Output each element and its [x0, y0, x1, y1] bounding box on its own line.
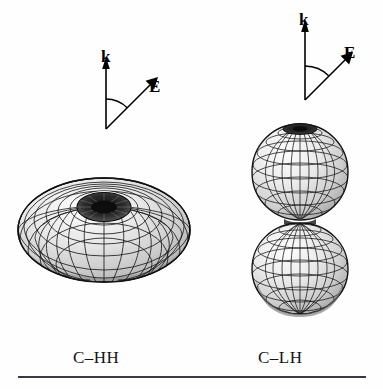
e-label-c-hh: E — [149, 78, 160, 95]
top-pole-core — [293, 127, 307, 132]
torus-svg — [14, 168, 194, 293]
dumbbell-top-lobe — [252, 124, 348, 221]
caption-c-hh: C–HH — [73, 348, 119, 368]
caption-c-lh: C–LH — [258, 348, 303, 368]
torus-surface-c-hh — [14, 168, 194, 293]
dumbbell-svg — [248, 120, 352, 320]
angle-arc-icon — [305, 66, 329, 76]
angle-arc-icon — [106, 99, 127, 108]
k-label-c-hh: k — [101, 48, 110, 65]
k-label-c-lh: k — [299, 11, 308, 28]
torus-hole-core — [91, 201, 117, 214]
k-vector-arrow — [102, 57, 110, 129]
bottom-rule — [18, 376, 366, 378]
radiation-pattern-figure: k E — [0, 0, 383, 389]
dumbbell-surface-c-lh — [248, 120, 352, 320]
dumbbell-bottom-lobe — [252, 223, 348, 317]
e-label-c-lh: E — [344, 44, 355, 61]
panel-c-lh: k E — [200, 0, 383, 389]
k-vector-arrow — [301, 19, 309, 100]
panel-c-hh: k E — [0, 0, 200, 389]
